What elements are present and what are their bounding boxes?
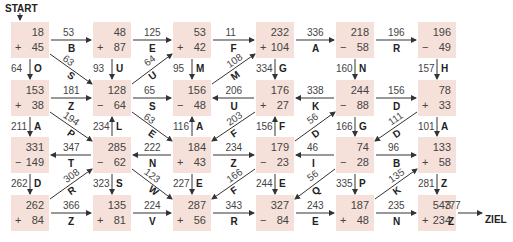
arrow-letter: D: [34, 178, 41, 189]
cell-r1c1: 18+45: [11, 22, 49, 58]
arrow-letter: E: [196, 178, 203, 189]
arrow-letter: A: [312, 43, 319, 54]
cell-r3c1: 331−149: [11, 137, 49, 173]
cell-bottom-number: 56: [194, 214, 206, 226]
cell-top-number: 48: [114, 26, 126, 38]
cell-operator: +: [177, 156, 183, 168]
arrow-value: 11: [226, 27, 236, 38]
cell-r4c3: 287+56: [173, 195, 211, 231]
cell-operator: −: [97, 99, 103, 111]
cell-top-number: 135: [108, 199, 126, 211]
cell-r4c4: 327−84: [256, 195, 294, 231]
cell-bottom-number: 58: [357, 41, 369, 53]
cell-top-number: 156: [188, 84, 206, 96]
cell-r2c2: 128−64: [93, 80, 131, 116]
cell-operator: +: [177, 214, 183, 226]
arrow-letter: N: [359, 63, 366, 74]
arrow-value: 234: [93, 121, 110, 132]
cell-bottom-number: 58: [439, 156, 451, 168]
arrow-letter: Z: [448, 216, 454, 227]
cell-bottom-number: 27: [277, 99, 289, 111]
arrow-letter: B: [68, 43, 75, 54]
cell-bottom-number: 42: [194, 41, 206, 53]
cell-top-number: 128: [108, 84, 126, 96]
cell-operator: +: [15, 214, 21, 226]
cell-bottom-number: 84: [32, 214, 44, 226]
cell-top-number: 196: [433, 26, 451, 38]
arrow-value: 211: [11, 121, 27, 132]
arrow-value: 93: [93, 63, 104, 74]
cell-r4c1: 262+84: [11, 195, 49, 231]
arrow-value: 95: [173, 63, 184, 74]
cell-top-number: 187: [351, 199, 369, 211]
cell-operator: +: [177, 41, 183, 53]
arrow-value: 46: [307, 142, 318, 153]
cell-r1c4: 232+104: [256, 22, 294, 58]
arrow-value: 224: [144, 200, 161, 211]
arrow-value: 156: [388, 85, 405, 96]
cell-r4c2: 135+81: [93, 195, 131, 231]
cell-top-number: 232: [271, 26, 289, 38]
cell-r2c3: 156−48: [173, 80, 211, 116]
arrow-value: 227: [173, 178, 190, 189]
arrow-value: 64: [11, 63, 22, 74]
cell-operator: −: [340, 41, 346, 53]
arrow-value: 206: [226, 85, 243, 96]
cell-operator: −: [422, 41, 428, 53]
cell-bottom-number: 38: [32, 99, 44, 111]
cell-operator: −: [260, 214, 266, 226]
arrow-letter: Z: [68, 216, 74, 227]
cell-operator: +: [97, 214, 103, 226]
arrow-value: 336: [307, 27, 324, 38]
cell-top-number: 327: [271, 199, 289, 211]
arrow-value: 323: [93, 178, 110, 189]
arrow-value: 343: [226, 200, 243, 211]
arrow-value: 222: [144, 142, 161, 153]
cell-operator: +: [422, 214, 428, 226]
arrow-value: 116: [173, 121, 189, 132]
cell-top-number: 74: [357, 141, 369, 153]
cell-bottom-number: 43: [194, 156, 206, 168]
arrow-letter: A: [196, 121, 203, 132]
arrow-value: 157: [418, 63, 435, 74]
cell-operator: +: [422, 99, 428, 111]
arrow-value: 156: [256, 121, 273, 132]
arrow-value: 243: [307, 200, 324, 211]
cell-bottom-number: 64: [114, 99, 126, 111]
cell-operator: +: [340, 214, 346, 226]
cell-bottom-number: 62: [114, 156, 126, 168]
arrow-value: 101: [418, 121, 435, 132]
arrow-value: 96: [388, 142, 399, 153]
arrow-value: 334: [256, 63, 273, 74]
arrow-value: 777: [444, 200, 461, 211]
arrow-letter: G: [359, 121, 367, 132]
arrow-value: 335: [336, 178, 353, 189]
cell-operator: −: [15, 156, 21, 168]
cell-top-number: 153: [26, 84, 44, 96]
cell-operator: −: [97, 156, 103, 168]
cell-r1c2: 48+87: [93, 22, 131, 58]
arrow-letter: P: [359, 178, 366, 189]
arrow-value: 244: [256, 178, 273, 189]
arrow-letter: R: [231, 216, 238, 227]
cell-bottom-number: 33: [439, 99, 451, 111]
arrow-letter: M: [196, 63, 204, 74]
cell-top-number: 53: [194, 26, 206, 38]
arrow-value: 262: [11, 178, 28, 189]
cell-top-number: 176: [271, 84, 289, 96]
cell-r3c2: 285−62: [93, 137, 131, 173]
cell-top-number: 287: [188, 199, 206, 211]
cell-bottom-number: 81: [114, 214, 126, 226]
cell-top-number: 78: [439, 84, 451, 96]
cell-operator: −: [260, 156, 266, 168]
arrow-letter: O: [34, 63, 42, 74]
arrow-value: 160: [336, 63, 353, 74]
cell-top-number: 179: [271, 141, 289, 153]
arrow-value: 166: [336, 121, 353, 132]
cell-top-number: 244: [351, 84, 369, 96]
arrow-value: 234: [226, 142, 243, 153]
cell-r1c6: 196−49: [418, 22, 456, 58]
cell-top-number: 184: [188, 141, 206, 153]
cell-operator: +: [97, 41, 103, 53]
cell-top-number: 133: [433, 141, 451, 153]
